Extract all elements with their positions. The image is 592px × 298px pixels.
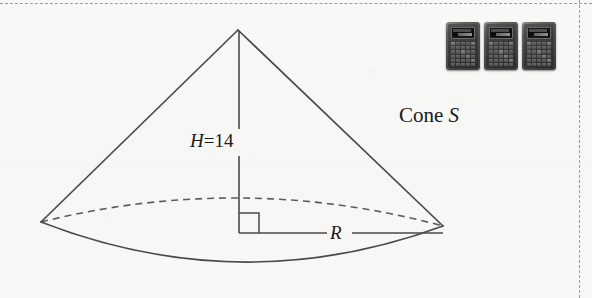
calculator-key <box>461 59 465 62</box>
calculator-key <box>504 46 508 49</box>
base-ellipse-visible-arc <box>41 222 443 262</box>
calculator-key <box>494 55 498 58</box>
calculator-body <box>448 24 478 68</box>
calculator-key <box>509 55 513 58</box>
calculator-key <box>489 50 493 53</box>
cone-name-label: Cone S <box>399 105 459 126</box>
calculator-key <box>461 46 465 49</box>
calculator-key <box>466 50 470 53</box>
calculator-key <box>466 55 470 58</box>
calculator-key <box>509 50 513 53</box>
calculator-key <box>461 63 465 66</box>
calculator-key <box>537 50 541 53</box>
cone-right-slant-edge <box>238 30 443 226</box>
calculator-key <box>527 55 531 58</box>
calculator-key <box>527 50 531 53</box>
calculator-key <box>542 59 546 62</box>
calculator-key <box>499 50 503 53</box>
calculator-key <box>504 55 508 58</box>
calculator-key <box>509 63 513 66</box>
right-angle-marker-icon <box>239 213 259 233</box>
calculator-key <box>532 59 536 62</box>
calculator-key <box>542 42 546 45</box>
calculator-key <box>547 55 551 58</box>
calculator-key <box>499 59 503 62</box>
calculator-key <box>532 50 536 53</box>
height-label: H=14 <box>190 131 233 150</box>
calculator-keypad <box>451 42 475 66</box>
calculator-key <box>456 63 460 66</box>
calculator-key <box>451 46 455 49</box>
calculator-key <box>489 55 493 58</box>
calculator-key <box>504 42 508 45</box>
calculator-icon-group <box>446 22 556 70</box>
calculator-key <box>547 59 551 62</box>
cone-name-identifier: S <box>449 103 460 127</box>
calculator-key <box>504 50 508 53</box>
calculator-key <box>456 50 460 53</box>
calculator-key <box>547 46 551 49</box>
calculator-key <box>499 42 503 45</box>
calculator-key <box>456 55 460 58</box>
calculator-display-glare <box>529 29 547 32</box>
radius-label: R <box>330 223 342 242</box>
calculator-key <box>451 50 455 53</box>
calculator-key <box>489 46 493 49</box>
calculator-key <box>527 42 531 45</box>
calculator-icon[interactable] <box>446 22 480 70</box>
calculator-key <box>456 42 460 45</box>
calculator-key <box>542 46 546 49</box>
height-equals-sign: = <box>204 130 215 151</box>
calculator-key <box>471 63 475 66</box>
calculator-key <box>494 42 498 45</box>
calculator-key <box>547 63 551 66</box>
calculator-icon[interactable] <box>522 22 556 70</box>
calculator-key <box>537 59 541 62</box>
calculator-key <box>471 55 475 58</box>
calculator-key <box>527 59 531 62</box>
calculator-key <box>456 59 460 62</box>
calculator-key <box>532 55 536 58</box>
calculator-key <box>494 59 498 62</box>
calculator-key <box>542 50 546 53</box>
calculator-key <box>471 59 475 62</box>
calculator-key <box>499 46 503 49</box>
calculator-key <box>451 63 455 66</box>
calculator-key <box>537 63 541 66</box>
calculator-key <box>504 63 508 66</box>
calculator-key <box>509 59 513 62</box>
calculator-key <box>509 42 513 45</box>
calculator-key <box>537 42 541 45</box>
calculator-key <box>542 55 546 58</box>
height-variable: H <box>190 130 204 151</box>
calculator-key <box>461 55 465 58</box>
calculator-display-glare <box>453 29 471 32</box>
calculator-key <box>466 59 470 62</box>
calculator-key <box>494 50 498 53</box>
calculator-display <box>451 27 475 39</box>
calculator-keypad <box>527 42 551 66</box>
calculator-key <box>509 46 513 49</box>
calculator-key <box>489 63 493 66</box>
calculator-key <box>527 46 531 49</box>
calculator-key <box>499 63 503 66</box>
figure-page: H=14 R Cone S <box>0 0 592 298</box>
calculator-display-readout <box>458 33 472 36</box>
calculator-key <box>489 59 493 62</box>
calculator-key <box>471 50 475 53</box>
base-ellipse-hidden-arc <box>41 198 443 226</box>
calculator-key <box>532 46 536 49</box>
calculator-keypad <box>489 42 513 66</box>
calculator-key <box>466 42 470 45</box>
calculator-body <box>486 24 516 68</box>
calculator-key <box>489 42 493 45</box>
calculator-key <box>451 42 455 45</box>
calculator-display-readout <box>496 33 510 36</box>
calculator-key <box>537 55 541 58</box>
calculator-key <box>466 46 470 49</box>
cone-name-prefix: Cone <box>399 103 449 127</box>
calculator-key <box>451 55 455 58</box>
calculator-icon[interactable] <box>484 22 518 70</box>
calculator-key <box>547 42 551 45</box>
calculator-key <box>456 46 460 49</box>
